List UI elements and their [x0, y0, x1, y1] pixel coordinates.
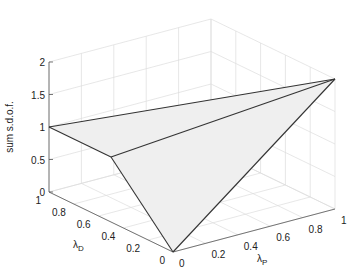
- x-axis-label: λP: [257, 253, 267, 267]
- z-tick-label: 2: [39, 57, 45, 68]
- z-tick-label: 0.5: [31, 155, 45, 166]
- x-tick-label: 1: [341, 215, 347, 226]
- z-tick-label: 1: [39, 122, 45, 133]
- surface: [49, 79, 335, 252]
- x-tick-label: 0: [179, 258, 185, 269]
- y-tick-label: 0.4: [101, 231, 115, 242]
- wall-grid-line: [49, 19, 211, 62]
- y-axis-label: λD: [73, 239, 84, 253]
- wall-grid-line: [49, 52, 211, 95]
- wall-grid-line: [211, 19, 335, 79]
- z-axis-label: sum s.d.o.f.: [4, 101, 15, 153]
- y-tick-label: 0.8: [52, 207, 66, 218]
- y-tick-label: 0.6: [77, 219, 91, 230]
- x-tick-label: 0.4: [244, 241, 258, 252]
- surface-chart: 00.511.5200.20.40.60.8100.20.40.60.81 su…: [0, 0, 358, 279]
- y-tick-label: 0: [159, 255, 165, 266]
- z-tick-label: 1.5: [31, 90, 45, 101]
- x-tick-label: 0.2: [211, 249, 225, 260]
- x-tick-label: 0.6: [276, 232, 290, 243]
- y-tick-label: 1: [35, 195, 41, 206]
- x-tick-label: 0.8: [309, 224, 323, 235]
- y-tick-label: 0.2: [126, 243, 140, 254]
